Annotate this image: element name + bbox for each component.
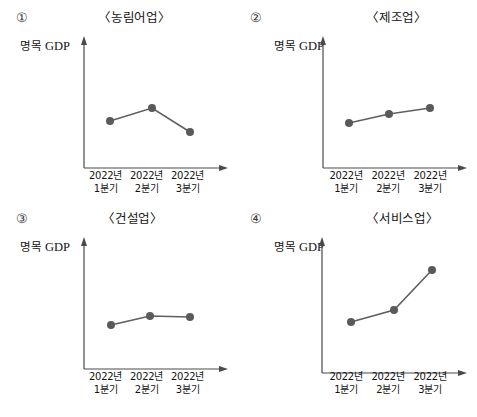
x-tick-2: 2022년 2분기 xyxy=(126,170,167,195)
data-point-marker xyxy=(428,266,436,274)
data-point-marker xyxy=(345,119,353,127)
x-tick-3: 2022년 3분기 xyxy=(409,170,451,195)
x-tick-3: 2022년 3분기 xyxy=(409,371,451,396)
data-point-marker xyxy=(390,306,398,314)
data-point-marker xyxy=(186,128,194,136)
x-tick-1: 2022년 1분기 xyxy=(85,170,126,195)
data-point-marker xyxy=(347,318,355,326)
x-tick-labels-3: 2022년 1분기 2022년 2분기 2022년 3분기 xyxy=(85,371,208,396)
y-axis-arrow-icon xyxy=(81,36,87,45)
data-point-marker xyxy=(186,313,194,321)
x-tick-labels-1: 2022년 1분기 2022년 2분기 2022년 3분기 xyxy=(85,170,208,195)
data-point-marker xyxy=(146,312,154,320)
x-axis-arrow-icon xyxy=(219,366,228,372)
x-axis-arrow-icon xyxy=(458,165,467,171)
y-axis-arrow-icon xyxy=(319,237,325,246)
data-point-marker xyxy=(426,104,434,112)
y-axis-arrow-icon xyxy=(320,36,326,45)
option-panel-1: ① 〈농림어업〉 명목 GDP 2022년 1분기 xyxy=(0,0,238,208)
series-line-2 xyxy=(345,104,434,127)
data-point-marker xyxy=(148,104,156,112)
series-line-3 xyxy=(107,312,194,329)
x-tick-2: 2022년 2분기 xyxy=(126,371,167,396)
x-tick-1: 2022년 1분기 xyxy=(325,371,367,396)
x-tick-3: 2022년 3분기 xyxy=(167,371,208,396)
x-tick-1: 2022년 1분기 xyxy=(325,170,367,195)
x-tick-labels-4: 2022년 1분기 2022년 2분기 2022년 3분기 xyxy=(325,371,451,396)
x-tick-1: 2022년 1분기 xyxy=(85,371,126,396)
option-panel-2: ② 〈제조업〉 명목 GDP 2022년 1분기 xyxy=(239,0,477,208)
option-panel-4: ④ 〈서비스업〉 명목 GDP 2022년 1분기 xyxy=(239,206,477,414)
x-tick-labels-2: 2022년 1분기 2022년 2분기 2022년 3분기 xyxy=(325,170,451,195)
option-panel-3: ③ 〈건설업〉 명목 GDP 2022년 1분기 xyxy=(0,206,238,414)
x-tick-3: 2022년 3분기 xyxy=(167,170,208,195)
data-point-marker xyxy=(385,110,393,118)
series-line-1 xyxy=(106,104,194,136)
x-tick-2: 2022년 2분기 xyxy=(367,371,409,396)
x-tick-2: 2022년 2분기 xyxy=(367,170,409,195)
axes-2 xyxy=(320,36,467,171)
y-axis-arrow-icon xyxy=(81,237,87,246)
chart-grid: ① 〈농림어업〉 명목 GDP 2022년 1분기 xyxy=(0,0,477,417)
data-point-marker xyxy=(107,321,115,329)
series-line-4 xyxy=(347,266,436,326)
axes-3 xyxy=(81,237,228,372)
x-axis-arrow-icon xyxy=(458,370,467,376)
data-point-marker xyxy=(106,117,114,125)
axes-1 xyxy=(81,36,228,171)
x-axis-arrow-icon xyxy=(219,165,228,171)
